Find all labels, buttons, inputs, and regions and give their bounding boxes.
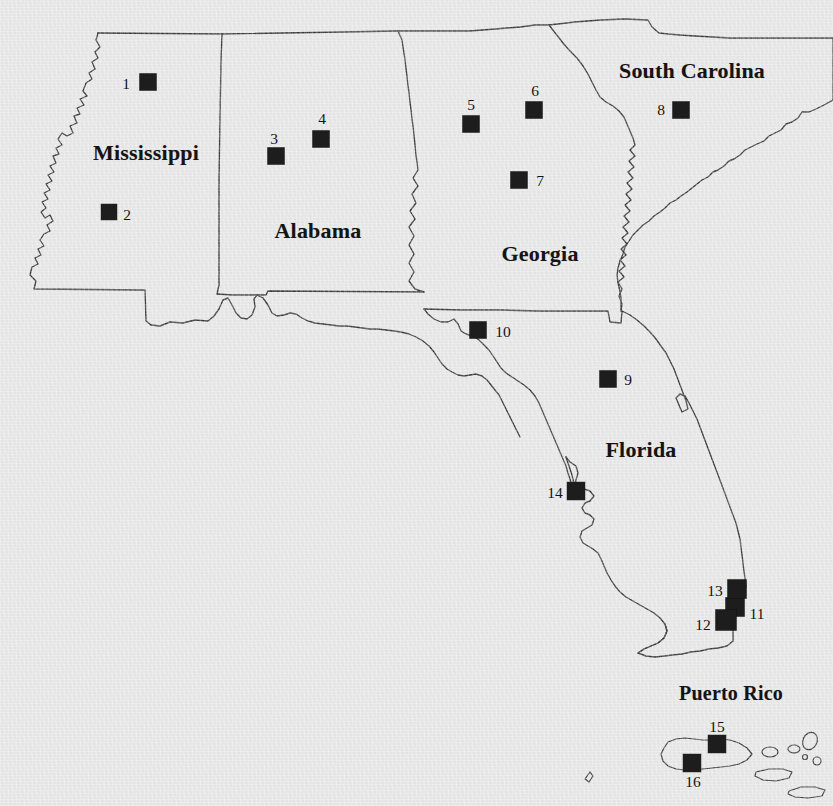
- island-dot-medium: [813, 757, 821, 765]
- island-culebra: [788, 745, 800, 753]
- site-marker-label-11: 11: [750, 606, 765, 622]
- state-label-south-carolina: South Carolina: [619, 58, 765, 84]
- site-marker-label-5: 5: [467, 97, 475, 113]
- site-marker-label-8: 8: [657, 102, 665, 118]
- alabama-south-border: [217, 291, 424, 295]
- mississippi-alabama-border: [217, 34, 222, 294]
- site-marker-label-1: 1: [122, 76, 130, 92]
- island-vieques: [762, 747, 778, 757]
- state-label-mississippi: Mississippi: [93, 140, 199, 166]
- alabama-north-border: [222, 31, 398, 34]
- gulf-coast-outline: [151, 295, 520, 437]
- island-st-thomas: [800, 730, 820, 752]
- site-marker-label-12: 12: [695, 617, 711, 633]
- puerto-rico-shapes: [585, 730, 825, 798]
- site-marker-label-6: 6: [531, 83, 539, 99]
- site-marker-label-10: 10: [495, 324, 511, 340]
- site-marker-7[interactable]: [511, 172, 528, 189]
- site-marker-label-13: 13: [707, 583, 723, 599]
- florida-keys-tip: [638, 624, 667, 653]
- site-marker-10[interactable]: [470, 322, 487, 339]
- site-marker-4[interactable]: [313, 131, 330, 148]
- site-marker-9[interactable]: [600, 371, 617, 388]
- map-container: MississippiAlabamaGeorgiaSouth CarolinaF…: [0, 0, 833, 806]
- island-lower-right: [788, 787, 825, 798]
- site-marker-label-3: 3: [270, 131, 278, 147]
- site-marker-5[interactable]: [463, 116, 480, 133]
- island-st-croix: [755, 769, 792, 781]
- mississippi-north-border: [98, 33, 222, 34]
- island-dot-small: [803, 755, 808, 760]
- site-marker-16[interactable]: [683, 754, 701, 772]
- state-label-florida: Florida: [605, 437, 676, 463]
- site-marker-8[interactable]: [673, 102, 690, 119]
- site-marker-label-7: 7: [536, 173, 544, 189]
- alabama-georgia-border: [398, 31, 424, 292]
- georgia-florida-border: [424, 309, 622, 323]
- site-marker-label-4: 4: [318, 111, 326, 127]
- site-marker-label-9: 9: [624, 372, 632, 388]
- island-tiny-left: [585, 772, 593, 782]
- site-marker-6[interactable]: [526, 102, 543, 119]
- state-label-alabama: Alabama: [275, 218, 362, 244]
- site-marker-13[interactable]: [728, 580, 747, 599]
- site-marker-15[interactable]: [708, 735, 726, 753]
- site-marker-label-16: 16: [685, 774, 701, 790]
- puerto-rico-outline: [661, 738, 752, 770]
- georgia-northwest-border: [398, 25, 549, 31]
- site-marker-3[interactable]: [268, 148, 285, 165]
- site-marker-14[interactable]: [567, 482, 585, 500]
- site-marker-2[interactable]: [101, 204, 117, 220]
- south-carolina-coast: [617, 100, 833, 311]
- south-carolina-north-border: [549, 19, 833, 38]
- site-marker-label-14: 14: [547, 485, 563, 501]
- site-marker-label-2: 2: [123, 207, 131, 223]
- state-boundaries: [30, 19, 833, 657]
- mississippi-outline: [30, 33, 151, 325]
- state-label-georgia: Georgia: [501, 241, 578, 267]
- state-label-puerto-rico: Puerto Rico: [679, 682, 783, 705]
- site-marker-1[interactable]: [140, 74, 157, 91]
- site-marker-12[interactable]: [716, 610, 737, 631]
- site-marker-label-15: 15: [709, 719, 725, 735]
